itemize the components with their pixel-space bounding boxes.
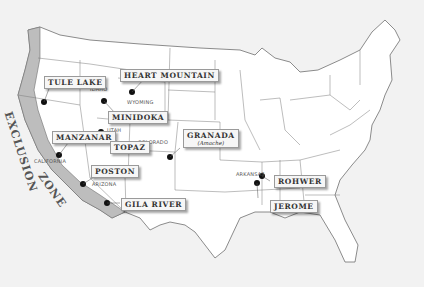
state-label-arizona: ARIZONA <box>92 181 116 187</box>
camp-label-heart-mountain[interactable]: Heart Mountain <box>120 69 219 82</box>
camp-label-poston[interactable]: Poston <box>91 165 139 178</box>
granada-name: Granada <box>187 131 235 140</box>
camp-label-minidoka[interactable]: Minidoka <box>108 111 168 124</box>
state-label-wyoming: WYOMING <box>127 99 153 105</box>
granada-subtitle: (Amache) <box>187 140 235 146</box>
state-label-arkansas: ARKANSAS <box>236 171 265 177</box>
camp-label-tule-lake[interactable]: Tule Lake <box>44 76 106 89</box>
state-label-california: CALIFORNIA <box>34 158 66 164</box>
camp-label-rohwer[interactable]: Rohwer <box>274 175 326 188</box>
camp-label-manzanar[interactable]: Manzanar <box>52 131 116 144</box>
camp-label-gila-river[interactable]: Gila River <box>121 198 186 211</box>
camp-label-topaz[interactable]: Topaz <box>110 141 150 154</box>
camp-label-granada[interactable]: Granada (Amache) <box>183 129 239 148</box>
camp-label-jerome[interactable]: Jerome <box>270 200 318 213</box>
